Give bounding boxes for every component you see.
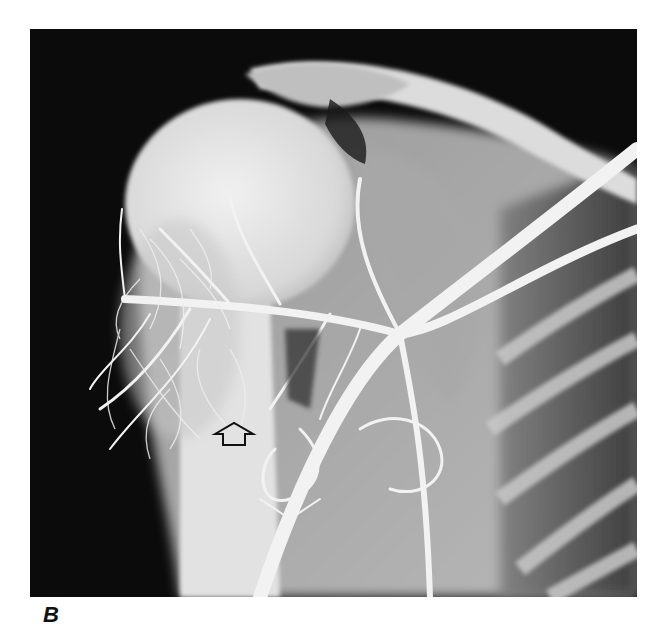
figure-panel: B bbox=[0, 0, 660, 626]
panel-label: B bbox=[43, 604, 59, 626]
up-arrow-icon bbox=[30, 29, 637, 597]
angiogram-image bbox=[30, 29, 637, 597]
